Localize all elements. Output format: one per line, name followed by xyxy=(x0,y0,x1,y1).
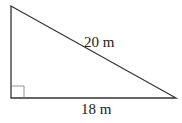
base-label: 18 m xyxy=(81,101,112,117)
triangle-shape xyxy=(11,6,176,98)
right-triangle-diagram: 20 m 18 m xyxy=(0,0,182,123)
right-angle-marker xyxy=(11,86,24,98)
hypotenuse-label: 20 m xyxy=(84,34,115,50)
